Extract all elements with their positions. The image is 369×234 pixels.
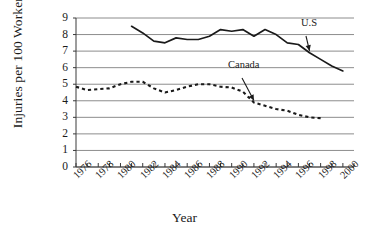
y-tick-label: 9	[52, 12, 68, 23]
y-tick-label: 3	[52, 111, 68, 122]
y-tick-label: 5	[52, 78, 68, 89]
series-label-us: U.S	[301, 17, 317, 28]
y-tick-label: 8	[52, 29, 68, 40]
y-axis-title: Injuries per 100 Workers	[10, 0, 26, 140]
series-line-canada	[76, 82, 321, 118]
y-tick-label: 7	[52, 45, 68, 56]
chart-figure: Injuries per 100 Workers Year 0123456789…	[0, 0, 369, 234]
series-label-canada: Canada	[228, 59, 260, 70]
y-tick-label: 1	[52, 144, 68, 155]
y-tick-label: 2	[52, 128, 68, 139]
y-tick-label: 6	[52, 62, 68, 73]
x-axis-title: Year	[0, 210, 369, 226]
y-tick-label: 4	[52, 95, 68, 106]
y-tick-label: 0	[52, 161, 68, 172]
